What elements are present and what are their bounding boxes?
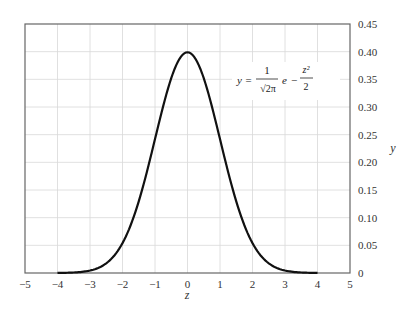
x-axis-label: z <box>184 288 190 302</box>
equation-minus: − <box>291 74 297 86</box>
equation-e: e <box>282 74 287 86</box>
x-tick-label: −2 <box>117 278 129 290</box>
equation-exponent-numerator: z² <box>302 64 311 75</box>
x-tick-label: 4 <box>315 278 321 290</box>
y-tick-label: 0.45 <box>358 18 378 30</box>
y-tick-label: 0.35 <box>358 73 378 85</box>
y-tick-label: 0.10 <box>358 212 378 224</box>
x-tick-label: 3 <box>282 278 288 290</box>
y-tick-label: 0.30 <box>358 101 378 113</box>
x-tick-label: 1 <box>217 278 223 290</box>
x-tick-label: −4 <box>52 278 64 290</box>
grid-lines <box>25 24 350 273</box>
equation-fraction-denominator: √2π <box>260 83 276 94</box>
y-tick-label: 0.15 <box>358 184 378 196</box>
y-axis-label: y <box>389 141 396 155</box>
y-tick-label: 0.40 <box>358 46 378 58</box>
x-tick-label: 5 <box>347 278 353 290</box>
x-tick-label: 2 <box>250 278 256 290</box>
y-tick-label: 0.20 <box>358 156 378 168</box>
equation-exponent-denominator: 2 <box>304 81 309 92</box>
equation-fraction-numerator: 1 <box>264 64 270 76</box>
x-tick-label: −1 <box>149 278 161 290</box>
y-tick-label: 0.25 <box>358 129 378 141</box>
equation-annotation: y = 1 √2π e − z² 2 <box>232 62 340 100</box>
equation-lhs: y = <box>236 74 252 86</box>
x-tick-label: −3 <box>84 278 96 290</box>
normal-distribution-chart: −5−4−3−2−1012345 00.050.100.150.200.250.… <box>0 0 405 314</box>
y-tick-label: 0.05 <box>358 239 378 251</box>
x-tick-label: −5 <box>19 278 31 290</box>
y-tick-label: 0 <box>358 267 364 279</box>
y-axis-ticks: 00.050.100.150.200.250.300.350.400.45 <box>358 18 378 279</box>
